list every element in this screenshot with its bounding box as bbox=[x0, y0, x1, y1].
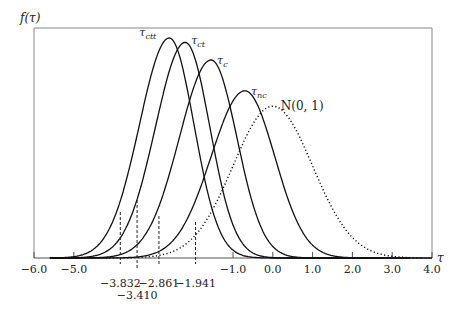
curve-c bbox=[50, 60, 410, 258]
curve-ctt bbox=[50, 38, 368, 258]
x-tick-label: 3.0 bbox=[383, 263, 401, 276]
x-tick-label: 2.0 bbox=[344, 263, 362, 276]
x-tick-label: −5.0 bbox=[60, 263, 87, 276]
critical-value-markers: −3.832−3.410−2.861−1.941 bbox=[100, 200, 216, 302]
critical-value-label: −3.410 bbox=[117, 289, 158, 302]
density-chart: −6.0−5.0−1.00.01.02.03.04.0 −3.832−3.410… bbox=[0, 0, 462, 310]
x-tick-label: 0.0 bbox=[264, 263, 282, 276]
curve-label: τc bbox=[217, 54, 228, 69]
y-axis-label: f(τ) bbox=[19, 11, 41, 25]
curve-label: N(0, 1) bbox=[281, 99, 324, 113]
curve-label: τct bbox=[191, 34, 206, 49]
x-axis-ticks: −6.0−5.0−1.00.01.02.03.04.0 bbox=[21, 252, 441, 276]
x-tick-label: −1.0 bbox=[220, 263, 247, 276]
x-tick-label: 1.0 bbox=[304, 263, 322, 276]
x-tick-label: −6.0 bbox=[21, 263, 48, 276]
curves bbox=[50, 38, 432, 258]
x-axis-label: τ bbox=[437, 251, 444, 265]
critical-value-label: −1.941 bbox=[175, 277, 216, 290]
curve-label: τnc bbox=[251, 85, 267, 100]
critical-value-label: −2.861 bbox=[139, 277, 180, 290]
